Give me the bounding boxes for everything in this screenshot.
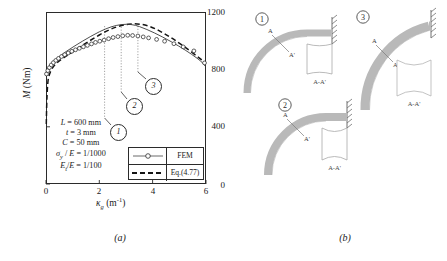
section-marker-aprime-1: A' bbox=[289, 51, 295, 58]
support-2 bbox=[347, 99, 352, 128]
callout-leaders bbox=[105, 72, 146, 125]
legend-row-eq: Eq.(4.77) bbox=[129, 165, 203, 181]
x-axis-sub: g bbox=[101, 203, 104, 210]
x-tick-label-2: 2 bbox=[89, 187, 109, 196]
legend-label-fem: FEM bbox=[167, 151, 203, 160]
section-marker-a-1: A bbox=[268, 27, 273, 34]
param-Et-over-E: Et/E = 1/100 bbox=[56, 161, 106, 174]
x-axis-label: κg (m-1) bbox=[96, 196, 125, 210]
callout-3: 3 bbox=[145, 78, 162, 95]
x-tick-label-6: 6 bbox=[196, 187, 216, 196]
diagram-1: A A' A-A' 1 bbox=[247, 13, 337, 93]
diagram-badge-label-3: 3 bbox=[361, 13, 365, 22]
callout-1: 1 bbox=[110, 124, 127, 141]
legend-symbol-eq bbox=[129, 165, 167, 181]
section-shape-1 bbox=[307, 44, 332, 74]
callout-2: 2 bbox=[126, 98, 143, 115]
y-axis-unit: (Nm) bbox=[22, 68, 32, 89]
param-C: C = 50 mm bbox=[56, 138, 106, 148]
support-1 bbox=[332, 15, 337, 44]
section-shape-2 bbox=[322, 128, 347, 160]
diagram-3: A A' A-A' 3 bbox=[357, 8, 436, 110]
y-axis-label: M (Nm) bbox=[22, 48, 32, 118]
beam-arc-2-edge bbox=[272, 121, 326, 175]
beam-arc-1 bbox=[247, 33, 307, 93]
x-axis-close: ) bbox=[122, 198, 125, 208]
legend-symbol-fem bbox=[129, 148, 167, 164]
section-marker-a-2: A bbox=[283, 111, 288, 118]
section-caption-1: A-A' bbox=[313, 78, 326, 85]
diagram-2: A A' A-A' 2 bbox=[268, 99, 352, 175]
parameter-list: L = 600 mm t = 3 mm C = 50 mm σy / E = 1… bbox=[56, 118, 106, 174]
figure-root: 1200 800 400 0 0 2 4 6 M (Nm) κg (m-1) L… bbox=[0, 0, 447, 261]
y-tick-label-400: 400 bbox=[181, 122, 225, 131]
panel-a-chart: 1200 800 400 0 0 2 4 6 M (Nm) κg (m-1) L… bbox=[0, 0, 225, 261]
param-t: t = 3 mm bbox=[56, 128, 106, 138]
caption-b: (b) bbox=[325, 232, 365, 243]
param-L: L = 600 mm bbox=[56, 118, 106, 128]
x-tick-label-4: 4 bbox=[143, 187, 163, 196]
section-shape-3 bbox=[397, 60, 431, 96]
x-tick-label-0: 0 bbox=[36, 187, 56, 196]
panel-b-diagrams: A A' A-A' 1 bbox=[225, 0, 447, 261]
legend-row-fem: FEM bbox=[129, 148, 203, 165]
section-marker-aprime-2: A' bbox=[304, 135, 310, 142]
param-sigma-y-over-E: σy / E = 1/1000 bbox=[56, 149, 106, 162]
diagram-badge-label-2: 2 bbox=[283, 101, 287, 110]
section-caption-2: A-A' bbox=[328, 164, 341, 171]
diagrams-svg: A A' A-A' 1 bbox=[225, 0, 447, 232]
legend-label-eq: Eq.(4.77) bbox=[167, 168, 203, 177]
y-tick-label-800: 800 bbox=[181, 65, 225, 74]
x-axis-unit: (m bbox=[106, 198, 117, 208]
y-tick-label-1200: 1200 bbox=[181, 8, 225, 17]
y-axis-var: M bbox=[22, 91, 32, 99]
section-marker-a-3: A bbox=[372, 37, 377, 44]
beam-arc-1-edge bbox=[251, 37, 308, 94]
support-3 bbox=[431, 8, 436, 38]
diagram-badge-label-1: 1 bbox=[260, 15, 264, 24]
caption-a: (a) bbox=[100, 232, 140, 243]
section-caption-3: A-A' bbox=[408, 100, 421, 107]
chart-legend: FEM Eq.(4.77) bbox=[128, 147, 204, 180]
beam-arc-2 bbox=[268, 117, 326, 175]
